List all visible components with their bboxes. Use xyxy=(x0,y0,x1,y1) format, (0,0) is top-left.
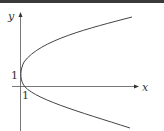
x-intercept-label: 1 xyxy=(22,89,29,102)
parabola-diagram: y x 1 1 xyxy=(0,0,164,131)
y-intercept-label: 1 xyxy=(11,69,18,82)
x-axis-arrow-icon xyxy=(134,85,139,89)
parabola-curve xyxy=(21,17,132,128)
x-axis-label: x xyxy=(142,81,149,94)
y-axis-label: y xyxy=(7,10,15,23)
y-axis-arrow-icon xyxy=(19,12,23,17)
